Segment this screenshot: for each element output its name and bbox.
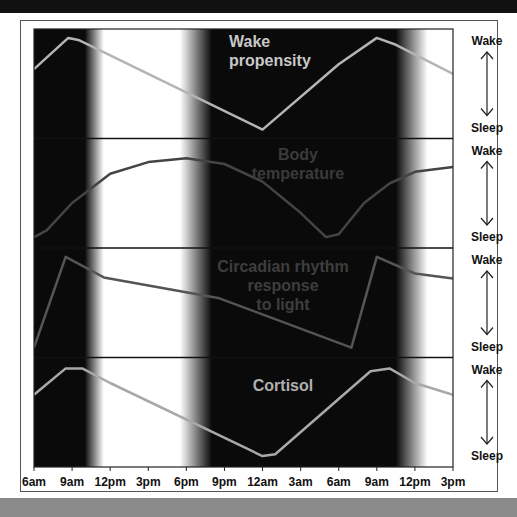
panel-title: Cortisol: [253, 377, 313, 394]
x-tick-label: 9am: [365, 475, 389, 489]
wake-label: Wake: [472, 253, 503, 267]
sleep-label: Sleep: [471, 121, 503, 135]
x-axis: 6am9am12pm3pm6pm9pm12am3am6am9am12pm3pm: [22, 467, 465, 489]
wake-label: Wake: [472, 34, 503, 48]
x-tick-label: 12pm: [399, 475, 430, 489]
x-tick-label: 3pm: [441, 475, 466, 489]
x-tick-label: 12pm: [95, 475, 126, 489]
circadian-chart: WakepropensityWakeSleepBodytemperatureWa…: [0, 0, 517, 517]
x-tick-label: 9am: [60, 475, 84, 489]
wake-label: Wake: [472, 363, 503, 377]
wake-sleep-arrow-icon: [481, 271, 493, 335]
wake-sleep-arrow-icon: [481, 162, 493, 226]
wake-sleep-arrow-icon: [481, 52, 493, 116]
sleep-label: Sleep: [471, 340, 503, 354]
x-tick-label: 6am: [327, 475, 351, 489]
sleep-label: Sleep: [471, 449, 503, 463]
x-tick-label: 3am: [289, 475, 313, 489]
x-tick-label: 6pm: [174, 475, 199, 489]
x-tick-label: 9pm: [212, 475, 237, 489]
wake-label: Wake: [472, 144, 503, 158]
wake-sleep-arrow-icon: [481, 381, 493, 445]
x-tick-label: 12am: [247, 475, 278, 489]
sleep-label: Sleep: [471, 230, 503, 244]
x-tick-label: 3pm: [136, 475, 161, 489]
x-tick-label: 6am: [22, 475, 46, 489]
